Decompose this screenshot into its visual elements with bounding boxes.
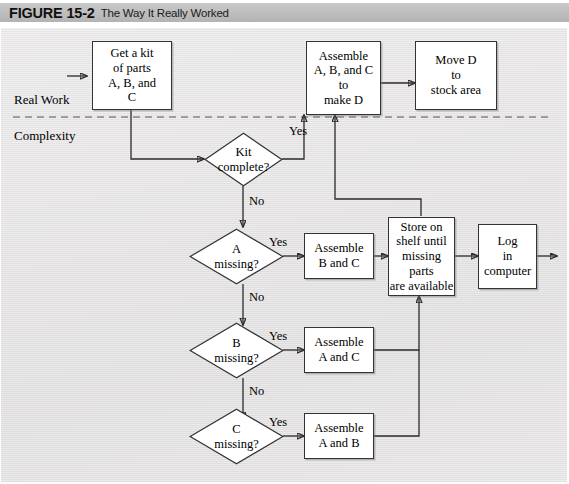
figure-title: The Way It Really Worked bbox=[101, 7, 229, 19]
edge-label-c-yes: Yes bbox=[269, 415, 287, 430]
node-assemble-bc-label: Assemble B and C bbox=[305, 241, 373, 271]
node-store-on-shelf-label: Store on shelf until missing parts are a… bbox=[389, 220, 454, 294]
edge-get-kit-to-kit-complete bbox=[131, 110, 204, 159]
edge-store-to-assemble-abc bbox=[335, 115, 421, 216]
node-assemble-ab-label: Assemble A and B bbox=[305, 421, 373, 451]
node-assemble-ac[interactable]: Assemble A and C bbox=[304, 327, 374, 373]
node-move-d[interactable]: Move D to stock area bbox=[415, 41, 497, 110]
edge-label-kit-no: No bbox=[249, 194, 264, 209]
node-kit-complete[interactable]: Kit complete? bbox=[204, 132, 283, 187]
node-assemble-abc-label: Assemble A, B, and C to make D bbox=[307, 49, 380, 108]
edge-label-kit-yes: Yes bbox=[289, 124, 307, 139]
node-log-in-computer-label: Log in computer bbox=[479, 234, 536, 278]
lane-label-complexity: Complexity bbox=[14, 128, 75, 144]
node-assemble-ac-label: Assemble A and C bbox=[305, 335, 373, 365]
node-store-on-shelf[interactable]: Store on shelf until missing parts are a… bbox=[388, 217, 455, 296]
node-log-in-computer[interactable]: Log in computer bbox=[478, 224, 537, 289]
node-assemble-abc[interactable]: Assemble A, B, and C to make D bbox=[306, 41, 381, 115]
edge-label-b-no: No bbox=[249, 384, 264, 399]
node-assemble-ab[interactable]: Assemble A and B bbox=[304, 413, 374, 459]
edge-label-a-no: No bbox=[249, 290, 264, 305]
figure-caption-bar: FIGURE 15-2 The Way It Really Worked bbox=[0, 3, 569, 22]
node-assemble-bc[interactable]: Assemble B and C bbox=[304, 233, 374, 279]
edge-label-a-yes: Yes bbox=[269, 235, 287, 250]
node-get-kit-label: Get a kit of parts A, B, and C bbox=[93, 46, 171, 105]
node-get-kit[interactable]: Get a kit of parts A, B, and C bbox=[92, 41, 172, 110]
edge-label-b-yes: Yes bbox=[269, 329, 287, 344]
edge-assemble-ac-to-store bbox=[373, 296, 419, 350]
figure-number: FIGURE 15-2 bbox=[9, 5, 95, 21]
flowchart-canvas: Real Work Complexity Get a kit of parts … bbox=[1, 28, 567, 482]
node-move-d-label: Move D to stock area bbox=[416, 53, 496, 97]
edge-assemble-ab-to-store bbox=[373, 350, 419, 436]
figure-page: FIGURE 15-2 The Way It Really Worked bbox=[0, 0, 569, 484]
lane-label-real-work: Real Work bbox=[14, 92, 69, 108]
